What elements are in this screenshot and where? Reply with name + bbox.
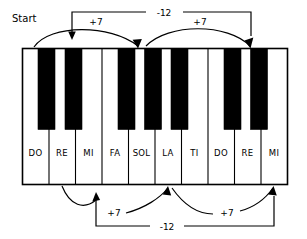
black-key-3 [118,49,135,130]
key-label-la: LA [162,148,173,158]
bottom-interval-2-label: +7 [220,208,233,218]
bottom-arc-1a [62,186,96,205]
keyboard: DO RE MI FA SOL LA TI DO RE MI [23,49,288,185]
key-label-re-1: RE [56,148,68,158]
key-label-sol: SOL [133,148,151,158]
bottom-arc-2b-arrowhead [268,186,277,195]
top-bracket-arrowhead [68,32,76,41]
key-label-do-2: DO [214,148,228,158]
top-interval-1-label: +7 [89,17,102,27]
bottom-arc-2b [240,188,273,211]
key-label-mi-2: MI [269,148,279,158]
key-label-do-1: DO [29,148,43,158]
key-label-ti: TI [189,148,198,158]
bottom-arc-1b [126,188,168,213]
bottom-interval-3-group: -12 [96,196,274,232]
key-label-fa: FA [110,148,121,158]
top-interval-1-group: +7 [34,17,142,49]
black-key-2 [65,49,82,130]
key-label-re-2: RE [242,148,254,158]
top-arc-2-arrowhead [245,38,254,49]
key-label-mi-1: MI [83,148,93,158]
bottom-interval-1-label: +7 [107,208,120,218]
black-key-1 [38,49,55,130]
bottom-arc-2a [172,188,213,214]
diagram-canvas: DO RE MI FA SOL LA TI DO RE MI Start +7 [0,0,307,239]
start-label: Start [12,13,37,24]
black-key-6 [224,49,241,130]
black-key-4 [145,49,162,130]
top-interval-3-label: +7 [193,17,206,27]
bottom-interval-3-label: -12 [160,222,175,232]
black-key-7 [251,49,268,130]
black-key-5 [171,49,188,130]
bottom-interval-2-group: +7 [172,186,277,218]
top-interval-3-group: +7 [146,17,253,49]
top-arc-1 [34,30,138,47]
black-keys [38,49,268,130]
top-interval-2-label: -12 [157,8,172,18]
bottom-bracket-left [96,200,150,226]
piano-interval-diagram: DO RE MI FA SOL LA TI DO RE MI Start +7 [0,0,307,239]
bottom-arc-1b-arrowhead [163,186,172,196]
top-arc-2 [146,29,250,46]
bottom-interval-1-group: +7 [62,186,171,218]
